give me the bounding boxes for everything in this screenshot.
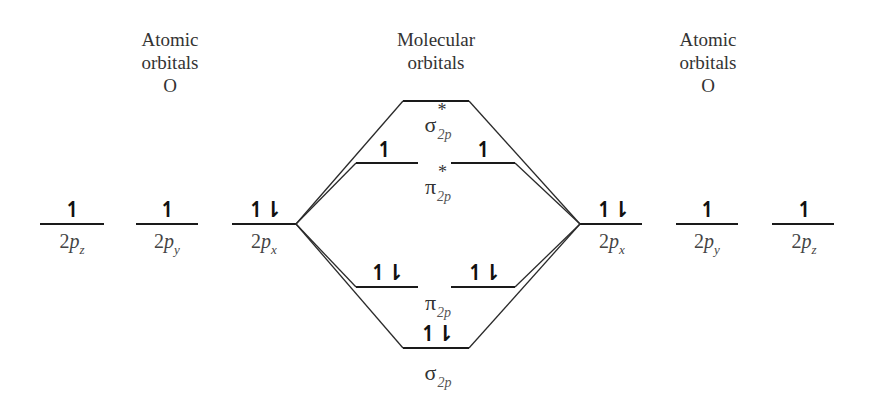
label-sigma-star-2p: σ*2p (425, 112, 452, 143)
label-left-2py: 2py (154, 230, 180, 258)
heading-right-atomic-orbitals: Atomic orbitals O (648, 28, 768, 97)
label-right-2px: 2px (599, 230, 625, 258)
electrons-left-2py: ↿ (159, 199, 175, 221)
heading-line: orbitals (648, 51, 768, 74)
heading-left-atomic-orbitals: Atomic orbitals O (110, 28, 230, 97)
electrons-right-2pz: ↿ (796, 199, 812, 221)
electrons-pi-star-right: ↿ (475, 139, 491, 161)
label-sigma-2p: σ2p (425, 360, 452, 391)
electrons-right-2px: ↿⇂ (596, 199, 629, 221)
label-right-2py: 2py (694, 230, 720, 258)
electrons-pi-left: ↿⇂ (370, 262, 403, 284)
electrons-pi-star-left: ↿ (376, 139, 392, 161)
heading-line: O (648, 74, 768, 97)
heading-line: orbitals (110, 51, 230, 74)
electrons-sigma: ↿⇂ (420, 323, 453, 345)
heading-molecular-orbitals: Molecular orbitals (366, 28, 506, 74)
heading-line: Atomic (110, 28, 230, 51)
label-left-2pz: 2pz (59, 230, 84, 258)
electrons-right-2py: ↿ (699, 199, 715, 221)
electrons-pi-right: ↿⇂ (467, 262, 500, 284)
heading-line: orbitals (366, 51, 506, 74)
electrons-left-2px: ↿⇂ (248, 199, 281, 221)
electrons-left-2pz: ↿ (64, 199, 80, 221)
label-left-2px: 2px (251, 230, 277, 258)
label-right-2pz: 2pz (791, 230, 816, 258)
label-pi-2p: π2p (425, 290, 451, 321)
heading-line: Molecular (366, 28, 506, 51)
heading-line: Atomic (648, 28, 768, 51)
heading-line: O (110, 74, 230, 97)
label-pi-star-2p: π*2p (425, 174, 451, 205)
